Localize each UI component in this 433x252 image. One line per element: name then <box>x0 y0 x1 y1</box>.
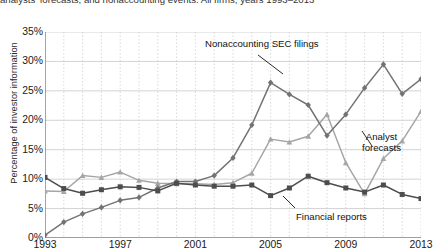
y-tick-label: 10% <box>9 173 43 184</box>
y-tick-label: 25% <box>9 85 43 96</box>
data-point-marker <box>61 186 66 191</box>
data-point-marker <box>381 183 386 188</box>
data-point-marker <box>99 187 104 192</box>
x-tick-label: 2009 <box>334 239 357 250</box>
data-point-marker <box>155 188 160 193</box>
y-tick-label: 15% <box>9 144 43 155</box>
x-tick-label: 2001 <box>184 239 207 250</box>
data-point-marker <box>174 181 179 186</box>
annotation-nonaccounting-sec-filings: Nonaccounting SEC filings <box>205 38 319 49</box>
data-point-marker <box>324 112 330 117</box>
annotation-analyst-line-1: Analyst <box>362 131 401 142</box>
data-point-marker <box>343 160 349 165</box>
y-tick-label: 35% <box>9 26 43 37</box>
x-tick-label: 1997 <box>109 239 132 250</box>
annotation-financial-reports: Financial reports <box>296 211 367 222</box>
data-point-marker <box>287 185 292 190</box>
data-point-marker <box>136 194 141 200</box>
annotation-analyst-forecasts: Analyst forecasts <box>362 131 401 153</box>
data-point-marker <box>418 109 421 114</box>
y-tick-label: 5% <box>9 203 43 214</box>
data-point-marker <box>268 80 273 86</box>
y-tick-label: 30% <box>9 55 43 66</box>
data-point-marker <box>287 91 292 97</box>
data-point-marker <box>249 170 255 175</box>
data-point-marker <box>268 193 273 198</box>
annotation-analyst-line-2: forecasts <box>362 142 401 153</box>
data-point-marker <box>419 196 422 201</box>
data-point-marker <box>400 192 405 197</box>
data-point-marker <box>99 204 104 210</box>
data-point-marker <box>231 184 236 189</box>
x-tick-label: 1993 <box>33 239 56 250</box>
data-point-marker <box>325 180 330 185</box>
data-point-marker <box>118 184 123 189</box>
x-axis-ticks: 199319972001200520092013 <box>45 239 421 252</box>
y-tick-label: 20% <box>9 114 43 125</box>
annotation-leader-line <box>283 196 295 208</box>
y-axis-ticks: 35%30%25%20%15%10%5%0% <box>0 0 43 252</box>
data-point-marker <box>137 185 142 190</box>
data-point-marker <box>343 185 348 190</box>
data-point-marker <box>362 190 367 195</box>
data-point-marker <box>212 184 217 189</box>
x-tick-label: 2013 <box>409 239 432 250</box>
data-point-marker <box>80 191 85 196</box>
x-tick-label: 2005 <box>259 239 282 250</box>
data-point-marker <box>45 175 48 180</box>
data-point-marker <box>306 174 311 179</box>
data-point-marker <box>249 183 254 188</box>
figure-caption: analysts' forecasts, and nonaccounting e… <box>0 0 430 12</box>
data-point-marker <box>193 183 198 188</box>
data-point-marker <box>118 197 123 203</box>
data-point-marker <box>80 211 85 217</box>
